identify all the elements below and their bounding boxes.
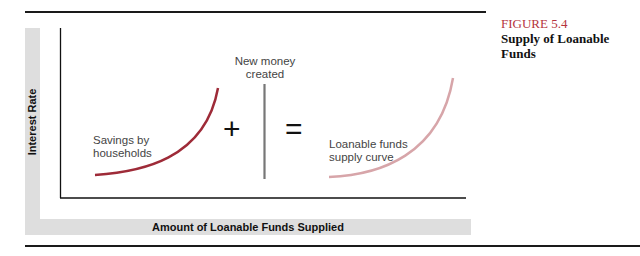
new-money-line2: created — [230, 68, 300, 81]
equals-sign: = — [285, 112, 303, 146]
figure-title: Supply of Loanable Funds — [501, 31, 621, 61]
savings-label-line1: Savings by — [93, 134, 152, 147]
new-money-line1: New money — [230, 55, 300, 68]
supply-label-line2: supply curve — [329, 151, 408, 164]
supply-label: Loanable funds supply curve — [329, 138, 408, 164]
savings-label: Savings by households — [93, 134, 152, 160]
figure-number: FIGURE 5.4 — [501, 16, 567, 32]
savings-label-line2: households — [93, 147, 152, 160]
supply-label-line1: Loanable funds — [329, 138, 408, 151]
plus-sign: + — [223, 112, 241, 146]
savings-curve — [95, 88, 218, 175]
new-money-label: New money created — [230, 55, 300, 81]
